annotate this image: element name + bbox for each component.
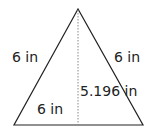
base-label: 6 in <box>37 101 63 117</box>
right-side-label: 6 in <box>114 49 140 65</box>
height-label: 5.196 in <box>80 83 137 99</box>
triangle-diagram: 6 in 6 in 5.196 in 6 in <box>0 0 155 136</box>
left-side-label: 6 in <box>12 49 38 65</box>
